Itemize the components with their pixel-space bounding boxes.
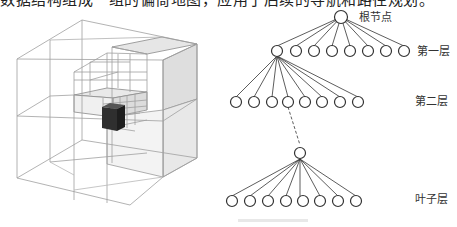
level2-nodes [231,97,364,108]
level1-edges [236,56,358,97]
leaf-nodes [227,196,362,207]
leaf-parent-node [295,148,306,159]
leaf-voxel [102,103,125,131]
label-level2: 第二层 [415,94,448,108]
root-node [335,11,348,24]
level1-nodes [272,46,410,57]
tree-nodes [227,11,410,207]
shaded-right-face-upper [163,44,197,110]
shaded-right-face-lower [163,99,197,177]
label-level1: 第一层 [417,44,450,58]
label-leaf: 叶子层 [415,193,448,206]
label-root: 根节点 [359,10,392,24]
dashed-connector [288,107,300,145]
figure-caption [238,219,308,222]
leaf-parent-edges [232,159,356,196]
figure-canvas: 根节点 第一层 第二层 叶子层 [0,0,457,227]
